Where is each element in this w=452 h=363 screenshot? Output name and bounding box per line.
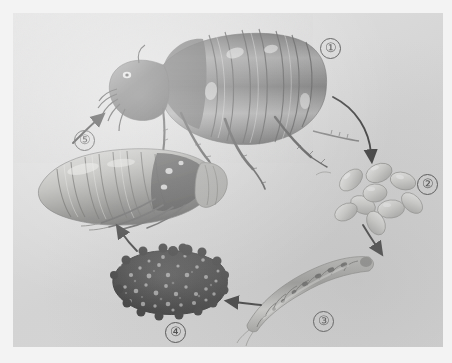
- pupa-figure: [38, 149, 227, 230]
- cocoon-figure: [110, 244, 229, 321]
- stage-label-3: ③: [313, 311, 334, 332]
- figure-page: ① ② ③ ④ ⑤: [0, 0, 452, 363]
- life-cycle-illustration: [13, 13, 443, 347]
- figure-caption: [14, 351, 434, 362]
- stage-label-1: ①: [320, 38, 341, 59]
- egg-cluster-figure: [316, 160, 427, 238]
- arrow-adult-to-eggs: [333, 97, 371, 153]
- figure-plate: ① ② ③ ④ ⑤: [13, 13, 443, 347]
- stage-label-5: ⑤: [74, 130, 95, 151]
- arrow-larva-to-cocoon: [235, 302, 261, 305]
- arrow-cocoon-to-pupa: [122, 233, 137, 251]
- stage-label-4: ④: [165, 322, 186, 343]
- stage-label-2: ②: [417, 174, 438, 195]
- larva-figure: [237, 257, 374, 346]
